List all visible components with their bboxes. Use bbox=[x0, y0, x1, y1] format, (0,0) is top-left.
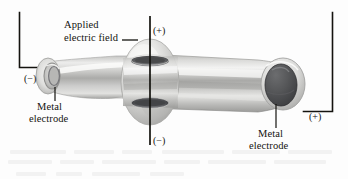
apparatus-illustration bbox=[0, 0, 348, 179]
field-polarity-bottom-minus: (−) bbox=[153, 136, 165, 146]
right-tube-end bbox=[261, 58, 305, 110]
tube-polarity-right-plus: (+) bbox=[309, 112, 321, 122]
left-terminal-bracket bbox=[20, 13, 45, 68]
metal-electrode-left-label-line1: Metal bbox=[37, 101, 62, 113]
left-tube-end bbox=[36, 58, 60, 94]
field-polarity-top-plus: (+) bbox=[153, 26, 165, 36]
applied-field-label-line2: electric field bbox=[64, 32, 118, 44]
glass-tube-assembly bbox=[36, 39, 305, 125]
right-terminal-bracket bbox=[304, 13, 333, 112]
applied-field-label-line1: Applied bbox=[64, 19, 99, 31]
metal-electrode-right-label-line1: Metal bbox=[258, 128, 283, 140]
metal-electrode-right-label-line2: electrode bbox=[249, 140, 288, 152]
figure-canvas: Applied electric field Metal electrode M… bbox=[0, 0, 348, 179]
tube-polarity-left-minus: (−) bbox=[24, 74, 36, 84]
metal-electrode-left-label-line2: electrode bbox=[29, 113, 68, 125]
